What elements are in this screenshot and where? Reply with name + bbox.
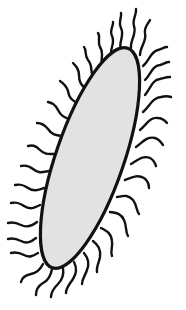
flagellum [120, 13, 122, 50]
flagellum [21, 264, 43, 282]
flagellum [136, 138, 163, 147]
flagellum [117, 196, 139, 214]
flagellum [60, 81, 77, 103]
flagellum [8, 222, 37, 226]
flagellum [37, 123, 62, 136]
flagellum [101, 228, 112, 256]
bacterium-svg [0, 0, 186, 310]
flagellum [140, 20, 150, 55]
flagellum [82, 253, 88, 284]
flagellum [143, 96, 171, 112]
flagellum [15, 184, 44, 190]
flagellum [48, 102, 69, 119]
flagellum [140, 118, 167, 130]
bacterium-illustration [0, 0, 186, 310]
flagellum [145, 77, 170, 95]
flagellum [51, 268, 63, 297]
flagellum [28, 145, 55, 154]
flagellum [66, 262, 76, 293]
flagellum [21, 165, 49, 172]
flagellum [36, 269, 52, 295]
flagellum [110, 212, 128, 236]
flagellum [125, 176, 149, 188]
flagellum [131, 9, 136, 48]
flagellum [131, 157, 156, 166]
flagellum [93, 241, 100, 272]
flagellum [11, 202, 40, 208]
flagellum [8, 238, 36, 242]
flagellum [11, 252, 38, 256]
